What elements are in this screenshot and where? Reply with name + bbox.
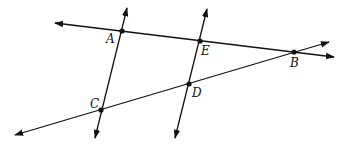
point-E bbox=[197, 38, 202, 43]
label-C: C bbox=[90, 98, 99, 110]
geometry-diagram: A E B C D bbox=[0, 0, 347, 146]
label-B: B bbox=[290, 57, 299, 69]
label-E: E bbox=[201, 45, 210, 57]
label-A: A bbox=[106, 33, 115, 45]
line-CB bbox=[15, 42, 329, 135]
point-A bbox=[119, 28, 124, 33]
label-D: D bbox=[192, 87, 202, 99]
line-AC bbox=[95, 8, 127, 138]
diagram-lines bbox=[0, 0, 347, 146]
point-D bbox=[186, 81, 191, 86]
point-B bbox=[291, 49, 296, 54]
line-ED bbox=[175, 9, 207, 138]
